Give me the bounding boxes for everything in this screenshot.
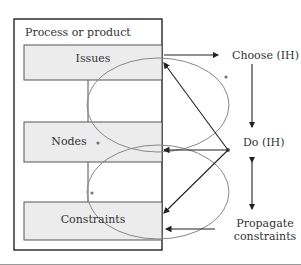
lower-ellipse-dot: [90, 191, 93, 194]
arrow-hub-to-constraints: [164, 150, 228, 213]
propagate-label-line2: constraints: [226, 231, 301, 242]
frame-title: Process or product: [25, 27, 131, 38]
do-label: Do (IH): [243, 137, 284, 148]
constraints-label: Constraints: [24, 214, 162, 225]
issues-label: Issues: [24, 53, 162, 64]
arrow-hub-to-issues: [164, 63, 228, 150]
propagate-label-line1: Propagate: [230, 218, 300, 229]
nodes-label: Nodes: [24, 136, 114, 147]
choose-label: Choose (IH): [232, 50, 299, 61]
upper-ellipse-dot: [224, 75, 227, 78]
